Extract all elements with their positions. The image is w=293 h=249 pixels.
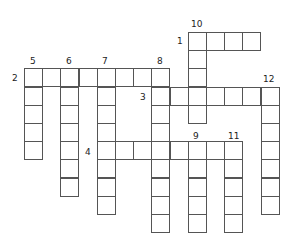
crossword-cell[interactable] — [224, 196, 243, 215]
crossword-cell[interactable] — [151, 68, 170, 87]
clue-number-11: 11 — [228, 131, 239, 141]
crossword-cell[interactable] — [133, 141, 152, 160]
crossword-cell[interactable] — [188, 159, 207, 178]
clue-number-1: 1 — [177, 36, 183, 46]
crossword-cell[interactable] — [115, 68, 134, 87]
crossword-cell[interactable] — [170, 87, 189, 106]
crossword-cell[interactable] — [261, 87, 280, 106]
crossword-cell[interactable] — [242, 87, 261, 106]
crossword-cell[interactable] — [24, 141, 43, 160]
crossword-cell[interactable] — [151, 196, 170, 215]
crossword-cell[interactable] — [224, 141, 243, 160]
crossword-cell[interactable] — [188, 32, 207, 51]
crossword-cell[interactable] — [115, 141, 134, 160]
crossword-cell[interactable] — [24, 123, 43, 142]
crossword-cell[interactable] — [224, 214, 243, 233]
crossword-cell[interactable] — [60, 141, 79, 160]
crossword-cell[interactable] — [261, 105, 280, 124]
crossword-cell[interactable] — [261, 123, 280, 142]
crossword-cell[interactable] — [206, 141, 225, 160]
crossword-cell[interactable] — [97, 178, 116, 197]
crossword-cell[interactable] — [242, 32, 261, 51]
crossword-cell[interactable] — [261, 141, 280, 160]
crossword-cell[interactable] — [151, 178, 170, 197]
crossword-grid: 123456789101112 — [0, 0, 293, 249]
clue-number-3: 3 — [140, 92, 146, 102]
crossword-cell[interactable] — [60, 178, 79, 197]
clue-number-10: 10 — [191, 19, 202, 29]
crossword-cell[interactable] — [151, 141, 170, 160]
clue-number-2: 2 — [12, 73, 18, 83]
crossword-cell[interactable] — [151, 214, 170, 233]
crossword-cell[interactable] — [151, 87, 170, 106]
crossword-cell[interactable] — [188, 214, 207, 233]
crossword-cell[interactable] — [151, 105, 170, 124]
crossword-cell[interactable] — [97, 68, 116, 87]
crossword-cell[interactable] — [60, 105, 79, 124]
crossword-cell[interactable] — [188, 196, 207, 215]
crossword-cell[interactable] — [60, 123, 79, 142]
crossword-cell[interactable] — [24, 105, 43, 124]
crossword-cell[interactable] — [151, 159, 170, 178]
clue-number-5: 5 — [30, 56, 36, 66]
crossword-cell[interactable] — [97, 159, 116, 178]
crossword-cell[interactable] — [224, 87, 243, 106]
clue-number-4: 4 — [85, 147, 91, 157]
crossword-cell[interactable] — [188, 87, 207, 106]
crossword-cell[interactable] — [261, 159, 280, 178]
crossword-cell[interactable] — [60, 87, 79, 106]
crossword-cell[interactable] — [224, 32, 243, 51]
clue-number-12: 12 — [263, 74, 274, 84]
crossword-cell[interactable] — [188, 68, 207, 87]
crossword-cell[interactable] — [206, 32, 225, 51]
crossword-cell[interactable] — [42, 68, 61, 87]
crossword-cell[interactable] — [188, 50, 207, 69]
crossword-cell[interactable] — [97, 105, 116, 124]
clue-number-9: 9 — [193, 131, 199, 141]
crossword-cell[interactable] — [133, 68, 152, 87]
crossword-cell[interactable] — [97, 196, 116, 215]
clue-number-8: 8 — [157, 56, 163, 66]
clue-number-6: 6 — [66, 56, 72, 66]
crossword-cell[interactable] — [151, 123, 170, 142]
crossword-cell[interactable] — [188, 178, 207, 197]
crossword-cell[interactable] — [24, 87, 43, 106]
crossword-cell[interactable] — [79, 68, 98, 87]
crossword-cell[interactable] — [261, 196, 280, 215]
crossword-cell[interactable] — [206, 87, 225, 106]
crossword-cell[interactable] — [224, 159, 243, 178]
crossword-cell[interactable] — [261, 178, 280, 197]
crossword-cell[interactable] — [97, 87, 116, 106]
crossword-cell[interactable] — [24, 68, 43, 87]
crossword-cell[interactable] — [60, 68, 79, 87]
crossword-cell[interactable] — [188, 141, 207, 160]
crossword-cell[interactable] — [60, 159, 79, 178]
crossword-cell[interactable] — [224, 178, 243, 197]
crossword-cell[interactable] — [188, 105, 207, 124]
crossword-cell[interactable] — [97, 123, 116, 142]
crossword-cell[interactable] — [97, 141, 116, 160]
crossword-cell[interactable] — [170, 141, 189, 160]
clue-number-7: 7 — [102, 56, 108, 66]
